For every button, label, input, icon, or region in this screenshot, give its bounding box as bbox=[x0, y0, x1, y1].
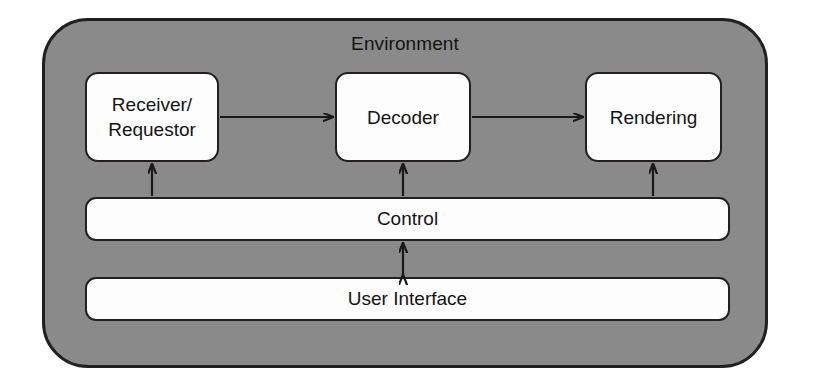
node-control[interactable]: Control bbox=[85, 197, 730, 241]
environment-label: Environment bbox=[42, 32, 768, 56]
diagram-canvas: Environment Receiver/ Requestor Decoder … bbox=[0, 0, 822, 386]
node-decoder[interactable]: Decoder bbox=[335, 72, 471, 162]
node-rendering[interactable]: Rendering bbox=[585, 72, 722, 162]
node-receiver-requestor[interactable]: Receiver/ Requestor bbox=[85, 72, 219, 162]
node-user-interface[interactable]: User Interface bbox=[85, 277, 730, 321]
